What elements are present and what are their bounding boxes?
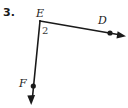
angle-label-2: 2	[42, 26, 48, 36]
angle-diagram-svg	[0, 0, 128, 108]
point-F-dot	[31, 83, 36, 88]
point-D-dot	[107, 30, 112, 35]
problem-number-label: 3.	[3, 7, 15, 18]
ray-EF-group	[27, 21, 40, 105]
vertex-label-e: E	[36, 8, 44, 19]
vertex-E-point	[39, 20, 41, 22]
ray-ED-arrowhead	[117, 31, 127, 38]
point-label-f: F	[19, 78, 27, 89]
geometry-figure: 3. E D F 2	[0, 0, 128, 108]
ray-ED-group	[40, 21, 126, 39]
point-label-d: D	[98, 15, 107, 26]
ray-EF-arrowhead	[27, 95, 35, 105]
